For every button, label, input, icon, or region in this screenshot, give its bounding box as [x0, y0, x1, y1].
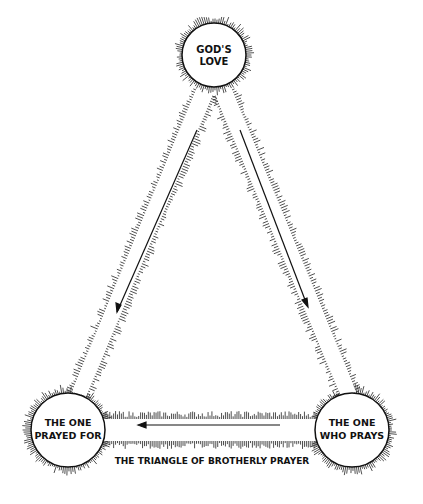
triangle-diagram: GOD'S LOVE THE ONE PRAYED FOR THE ONE WH… — [0, 0, 423, 504]
node-label-line1: THE ONE — [329, 417, 376, 428]
node-one-prayed-for: THE ONE PRAYED FOR — [31, 393, 105, 467]
node-label-line1: GOD'S — [196, 44, 231, 55]
node-gods-love: GOD'S LOVE — [182, 23, 246, 87]
node-label-line2: PRAYED FOR — [34, 430, 102, 441]
node-label-line1: THE ONE — [45, 417, 92, 428]
diagram-title: THE TRIANGLE OF BROTHERLY PRAYER — [115, 456, 310, 466]
node-label-line2: LOVE — [200, 56, 229, 67]
node-label-line2: WHO PRAYS — [320, 430, 384, 441]
node-one-who-prays: THE ONE WHO PRAYS — [315, 393, 389, 467]
band-left — [72, 90, 212, 396]
band-right — [216, 90, 356, 396]
arrow-right-edge — [240, 130, 308, 307]
band-bottom — [104, 419, 316, 441]
